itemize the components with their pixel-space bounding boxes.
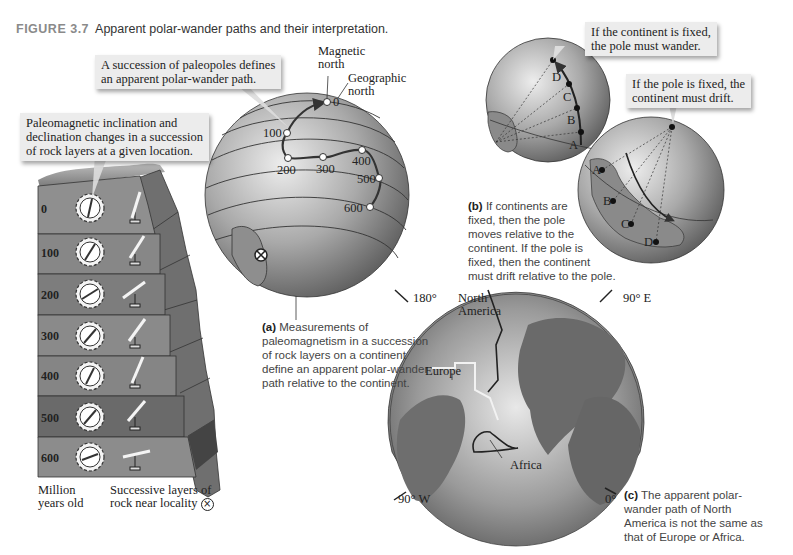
- layer-age-0: 0: [41, 202, 47, 217]
- label-180: 180°: [413, 292, 437, 305]
- path-label-100: 100: [263, 127, 282, 140]
- path-label-0: 0: [333, 96, 339, 109]
- callout-pole-fixed: If the pole is fixed, the continent must…: [626, 74, 751, 108]
- path-label-600: 600: [344, 202, 363, 215]
- label-million-years-old: Million years old: [38, 484, 83, 510]
- layer-age-400: 400: [41, 369, 59, 384]
- path-label-500: 500: [357, 173, 376, 186]
- caption-b: (b) If continents are fixed, then the po…: [468, 199, 616, 283]
- pole-label-b: B: [567, 114, 575, 127]
- continent-label-d: D: [644, 236, 653, 249]
- globe-a: [205, 76, 409, 297]
- layer-age-300: 300: [41, 329, 59, 344]
- layer-age-100: 100: [41, 246, 59, 261]
- label-europe: Europe: [425, 365, 461, 378]
- label-geographic-north: Geographic north: [348, 72, 406, 98]
- layer-age-500: 500: [41, 411, 59, 426]
- locality-marker-icon: [255, 249, 267, 261]
- path-label-300: 300: [316, 163, 335, 176]
- callout-rock-layers: Paleomagnetic inclination and declinatio…: [20, 113, 209, 161]
- globe-b-fixed-continent: [486, 38, 610, 162]
- path-label-200: 200: [277, 164, 296, 177]
- label-successive-layers: Successive layers of rock near locality …: [110, 484, 214, 511]
- label-magnetic-north: Magnetic north: [318, 45, 365, 71]
- label-north-america: North America: [458, 292, 501, 318]
- pole-label-a: A: [569, 139, 578, 152]
- pole-label-d: D: [552, 71, 561, 84]
- caption-a: (a) Measurements of paleomagnetism in a …: [262, 320, 428, 390]
- label-90e: 90° E: [623, 292, 651, 305]
- callout-polar-wander-path: A succession of paleopoles defines an ap…: [95, 55, 281, 89]
- continent-label-c: C: [621, 218, 629, 231]
- label-90w: 90° W: [398, 493, 430, 506]
- label-0: 0°: [605, 493, 616, 506]
- label-africa: Africa: [510, 459, 542, 472]
- layer-age-600: 600: [41, 451, 59, 466]
- caption-c: (c) The apparent polar- wander path of N…: [624, 488, 763, 544]
- callout-continent-fixed: If the continent is fixed, the pole must…: [585, 22, 717, 56]
- locality-marker-icon: ×: [201, 498, 214, 511]
- layer-age-200: 200: [41, 288, 59, 303]
- continent-label-a: A: [592, 164, 601, 177]
- pole-label-c: C: [563, 91, 571, 104]
- path-label-400: 400: [352, 155, 371, 168]
